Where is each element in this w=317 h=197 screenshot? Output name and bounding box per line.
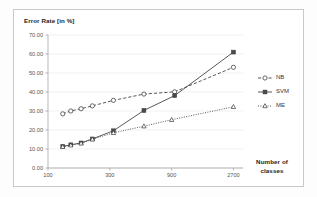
legend-marker-nb (263, 76, 267, 80)
y-tick-label: 10.00 (21, 146, 43, 152)
data-point-nb-6 (173, 90, 177, 94)
legend-label-svm: SVM (276, 88, 289, 94)
axis-lines (46, 35, 244, 171)
legend-markers (258, 76, 272, 108)
data-point-svm-7 (232, 50, 236, 54)
y-tick-label: 40.00 (21, 89, 43, 95)
y-tick-label: 50.00 (21, 70, 43, 76)
data-series-layer (61, 50, 236, 148)
x-tick-label: 100 (36, 172, 60, 178)
legend-label-nb: NB (276, 74, 284, 80)
y-tick-label: 0.00 (21, 165, 43, 171)
data-point-me-5 (142, 124, 146, 128)
legend-marker-svm (263, 90, 267, 94)
data-point-nb-5 (142, 92, 146, 96)
data-point-nb-1 (69, 109, 73, 113)
chart-plot (0, 0, 317, 197)
data-point-me-7 (231, 105, 235, 109)
series-svm (61, 50, 235, 148)
legend-label-me: ME (276, 102, 285, 108)
data-point-svm-6 (173, 94, 177, 98)
y-tick-label: 20.00 (21, 127, 43, 133)
data-point-nb-7 (231, 65, 235, 69)
data-point-me-6 (169, 117, 173, 121)
series-line-nb (63, 67, 234, 114)
x-tick-label: 900 (160, 172, 184, 178)
y-tick-label: 30.00 (21, 108, 43, 114)
data-point-nb-3 (90, 104, 94, 108)
data-point-nb-4 (111, 98, 115, 102)
x-tick-label: 2700 (221, 172, 245, 178)
gridlines (48, 35, 243, 168)
y-tick-label: 70.00 (21, 32, 43, 38)
data-point-svm-5 (142, 109, 146, 113)
data-point-nb-0 (61, 112, 65, 116)
chart-figure: Error Rate [in %] Number of classes 0.00… (0, 0, 317, 197)
x-tick-label: 300 (98, 172, 122, 178)
series-line-svm (63, 52, 234, 146)
data-point-nb-2 (79, 107, 83, 111)
y-tick-label: 60.00 (21, 51, 43, 57)
